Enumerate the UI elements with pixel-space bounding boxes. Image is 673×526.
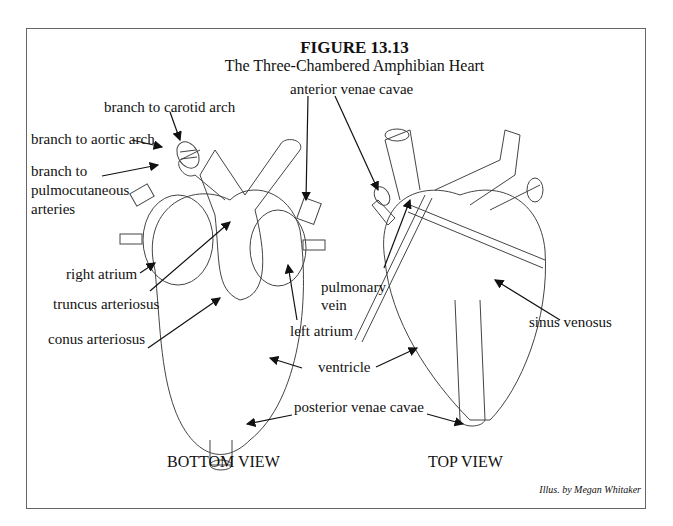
label-ventricle: ventricle xyxy=(318,358,370,376)
arrow-carotid xyxy=(170,112,180,140)
label-aortic: branch to aortic arch xyxy=(31,130,155,148)
label-pulmo-2: pulmocutaneous xyxy=(31,181,129,199)
label-sinus: sinus venosus xyxy=(529,313,612,331)
label-left-atrium: left atrium xyxy=(290,322,353,340)
label-pulmo-3: arteries xyxy=(31,200,75,218)
arrow-pulmocutaneous xyxy=(102,165,158,176)
label-pulmo-1: branch to xyxy=(31,162,87,180)
illustrator-credit: Illus. by Megan Whitaker xyxy=(539,484,641,495)
label-pulmonary-vein-1: pulmonary xyxy=(321,278,386,296)
bottom-view-caption: BOTTOM VIEW xyxy=(167,453,280,471)
arrow-left-atrium xyxy=(288,265,297,320)
arrow-posterior-1 xyxy=(247,415,292,424)
arrow-anterior-2 xyxy=(335,96,378,190)
arrow-anterior-1 xyxy=(306,96,308,200)
label-truncus: truncus arteriosus xyxy=(53,295,159,313)
heart-illustration xyxy=(0,0,673,526)
arrow-posterior-2 xyxy=(427,414,463,424)
label-conus: conus arteriosus xyxy=(48,330,145,348)
top-view-caption: TOP VIEW xyxy=(428,453,503,471)
label-anterior: anterior venae cavae xyxy=(290,80,413,98)
label-right-atrium: right atrium xyxy=(66,265,137,283)
arrow-ventricle-1 xyxy=(270,358,302,368)
label-posterior: posterior venae cavae xyxy=(294,398,424,416)
arrow-ventricle-2 xyxy=(376,348,417,367)
label-pulmonary-vein-2: vein xyxy=(321,296,347,314)
label-carotid: branch to carotid arch xyxy=(104,98,235,116)
